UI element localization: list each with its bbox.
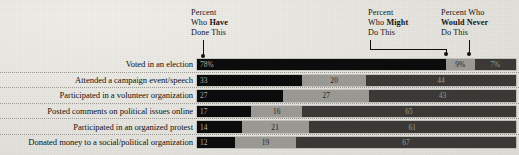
- stacked-bar: 142161: [197, 121, 516, 132]
- annotation-might-line3: Do This: [368, 28, 408, 38]
- bar-row-label: Donated money to a social/political orga…: [0, 138, 197, 147]
- annotation-might: Percent Who Might Do This: [368, 8, 408, 39]
- bar-row: Attended a campaign event/speech332044: [0, 73, 519, 89]
- stacked-bar: 272743: [197, 90, 516, 101]
- annotation-have-line3: Done This: [191, 28, 228, 38]
- bar-segment-have: 33: [197, 75, 302, 86]
- annotation-never-line2: Would Never: [441, 18, 488, 28]
- bar-row-label: Participated in an organized protest: [0, 123, 197, 132]
- bar-segment-might: 19: [235, 137, 296, 148]
- bar-segment-value: 9%: [455, 60, 465, 69]
- leader-dot-might: [444, 52, 448, 56]
- bar-segment-have: 78%: [197, 59, 446, 70]
- bar-row-label: Attended a campaign event/speech: [0, 76, 197, 85]
- bar-segment-have: 27: [197, 90, 283, 101]
- leader-line-might-horizontal: [370, 49, 447, 50]
- bar-row-label: Participated in a volunteer organization: [0, 91, 197, 100]
- bar-segment-value: 14: [200, 123, 208, 132]
- bar-segment-might: 21: [242, 121, 309, 132]
- stacked-bar: 121967: [197, 137, 516, 148]
- annotation-never-line3: Do This: [441, 28, 488, 38]
- annotation-have: Percent Who Have Done This: [191, 8, 228, 39]
- bar-row: Participated in an organized protest1421…: [0, 119, 519, 135]
- stacked-bar-chart: Percent Who Have Done This Percent Who M…: [0, 0, 519, 155]
- bar-segment-value: 20: [330, 76, 338, 85]
- bar-segment-value: 65: [405, 107, 413, 116]
- annotation-might-line1: Percent: [368, 8, 408, 18]
- bar-rows: Voted in an election78%9%7%Attended a ca…: [0, 57, 519, 151]
- leader-dot-never: [467, 52, 471, 56]
- bar-segment-never: 67: [296, 137, 516, 148]
- bar-segment-might: 9%: [446, 59, 475, 70]
- bar-segment-value: 17: [200, 107, 208, 116]
- bar-segment-never: 65: [302, 106, 516, 117]
- bar-segment-might: 16: [251, 106, 302, 117]
- bar-segment-might: 20: [302, 75, 366, 86]
- bar-row: Participated in a volunteer organization…: [0, 88, 519, 104]
- bar-segment-value: 43: [439, 91, 447, 100]
- bar-segment-value: 21: [271, 123, 279, 132]
- bar-segment-value: 12: [200, 138, 208, 147]
- bar-segment-value: 19: [262, 138, 270, 147]
- bar-row: Posted comments on political issues onli…: [0, 104, 519, 120]
- bar-segment-value: 33: [200, 76, 208, 85]
- bar-segment-never: 61: [309, 121, 516, 132]
- bar-segment-value: 78%: [200, 60, 214, 69]
- bar-segment-value: 7%: [490, 60, 500, 69]
- bar-segment-have: 12: [197, 137, 235, 148]
- bar-segment-have: 14: [197, 121, 242, 132]
- bar-segment-value: 67: [402, 138, 410, 147]
- bar-segment-value: 16: [273, 107, 281, 116]
- annotation-have-line2: Who Have: [191, 18, 228, 28]
- annotation-never-line1: Percent Who: [441, 8, 488, 18]
- bar-segment-have: 17: [197, 106, 251, 117]
- bar-row-label: Posted comments on political issues onli…: [0, 107, 197, 116]
- bar-segment-never: 7%: [475, 59, 516, 70]
- bar-segment-never: 43: [369, 90, 516, 101]
- bar-segment-value: 44: [437, 76, 445, 85]
- bar-segment-never: 44: [366, 75, 516, 86]
- stacked-bar: 78%9%7%: [197, 59, 516, 70]
- stacked-bar: 171665: [197, 106, 516, 117]
- stacked-bar: 332044: [197, 75, 516, 86]
- annotation-have-line1: Percent: [191, 8, 228, 18]
- bar-segment-value: 27: [322, 91, 330, 100]
- annotation-never: Percent Who Would Never Do This: [441, 8, 488, 39]
- bar-segment-value: 27: [200, 91, 208, 100]
- bar-segment-value: 61: [409, 123, 417, 132]
- annotation-might-line2: Who Might: [368, 18, 408, 28]
- bar-row-label: Voted in an election: [0, 60, 197, 69]
- bar-row: Donated money to a social/political orga…: [0, 135, 519, 151]
- bar-row: Voted in an election78%9%7%: [0, 57, 519, 73]
- bar-segment-might: 27: [283, 90, 369, 101]
